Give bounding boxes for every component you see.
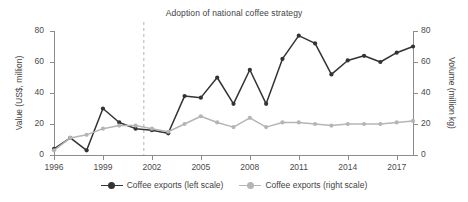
data-point[interactable] [101,127,105,131]
data-point[interactable] [411,44,415,48]
chart-legend: Coffee exports (left scale) Coffee expor… [0,180,468,190]
data-point[interactable] [378,122,382,126]
data-point[interactable] [85,148,89,152]
data-point[interactable] [362,122,366,126]
data-point[interactable] [297,120,301,124]
data-point[interactable] [101,106,105,110]
data-point[interactable] [231,125,235,129]
legend-item-right-scale[interactable]: Coffee exports (right scale) [239,180,367,190]
data-point[interactable] [264,102,268,106]
legend-swatch-right-scale [239,181,261,190]
data-point[interactable] [329,72,333,76]
data-point[interactable] [297,34,301,38]
data-point[interactable] [133,123,137,127]
data-point[interactable] [182,122,186,126]
data-point[interactable] [215,120,219,124]
data-point[interactable] [248,116,252,120]
data-point[interactable] [280,120,284,124]
data-point[interactable] [117,123,121,127]
legend-item-left-scale[interactable]: Coffee exports (left scale) [101,180,224,190]
data-point[interactable] [166,130,170,134]
legend-swatch-left-scale [101,181,123,190]
data-point[interactable] [264,125,268,129]
data-point[interactable] [329,123,333,127]
data-point[interactable] [182,94,186,98]
data-point[interactable] [68,136,72,140]
chart-container: Adoption of national coffee strategy Val… [0,0,468,202]
plot-area [0,0,468,202]
data-point[interactable] [215,75,219,79]
legend-label-right-scale: Coffee exports (right scale) [265,180,367,190]
series-right-scale [52,114,415,152]
data-point[interactable] [411,119,415,123]
data-point[interactable] [313,41,317,45]
data-point[interactable] [346,122,350,126]
data-point[interactable] [199,114,203,118]
data-point[interactable] [231,102,235,106]
data-point[interactable] [150,127,154,131]
data-point[interactable] [346,58,350,62]
data-point[interactable] [395,120,399,124]
data-point[interactable] [280,57,284,61]
series-line [54,116,413,150]
data-point[interactable] [362,54,366,58]
legend-label-left-scale: Coffee exports (left scale) [127,180,224,190]
data-point[interactable] [248,68,252,72]
data-point[interactable] [85,133,89,137]
data-point[interactable] [395,51,399,55]
data-point[interactable] [52,148,56,152]
series-left-scale [52,34,415,153]
data-point[interactable] [378,60,382,64]
data-point[interactable] [199,96,203,100]
series-line [54,36,413,151]
data-point[interactable] [313,122,317,126]
